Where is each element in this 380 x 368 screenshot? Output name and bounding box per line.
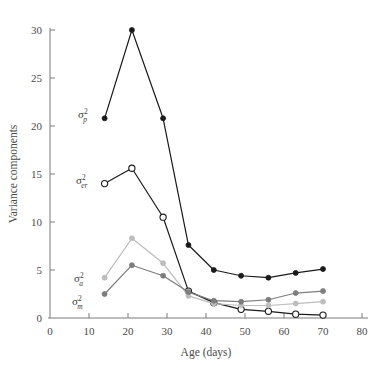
x-tick-label-50: 50 [240,325,252,337]
chart-figure: 05101520253001020304050607080 σ2pσ2erσ2a… [0,0,380,368]
y-axis-title: Variance components [7,124,20,223]
y-tick-label-15: 15 [31,168,43,180]
y-tick-label-30: 30 [31,24,43,36]
point-sigma-squared-m-0 [102,292,107,297]
x-tick-label-60: 60 [279,325,291,337]
line-sigma-squared-p [105,30,323,278]
point-sigma-squared-er-6 [265,308,271,314]
y-tick-label-20: 20 [31,120,43,132]
label-sigma-squared-a: σ2a [74,271,84,288]
point-sigma-squared-er-8 [320,312,326,318]
point-sigma-squared-p-2 [161,116,166,121]
point-sigma-squared-m-8 [321,289,326,294]
point-sigma-squared-a-0 [102,275,107,280]
x-axis-title: Age (days) [181,346,232,359]
series-inline-labels: σ2pσ2erσ2aσ2m [72,107,88,311]
x-tick-label-40: 40 [201,325,213,337]
point-sigma-squared-m-4 [211,298,216,303]
point-sigma-squared-m-7 [293,291,298,296]
label-sigma-squared-m: σ2m [72,294,83,311]
label-subscript: m [77,302,83,311]
point-sigma-squared-er-0 [102,181,108,187]
label-subscript: p [82,115,87,124]
point-sigma-squared-m-5 [239,299,244,304]
point-sigma-squared-m-3 [186,290,191,295]
x-tick-label-80: 80 [357,325,369,337]
y-tick-label-0: 0 [37,312,43,324]
point-sigma-squared-p-4 [211,268,216,273]
label-sigma-squared-er: σ2er [76,173,88,190]
x-tick-label-10: 10 [84,325,96,337]
point-sigma-squared-er-1 [129,165,135,171]
x-tick-label-20: 20 [123,325,135,337]
point-sigma-squared-p-3 [186,243,191,248]
variance-components-line-chart: 05101520253001020304050607080 σ2pσ2erσ2a… [0,0,380,368]
point-sigma-squared-p-6 [266,275,271,280]
point-sigma-squared-a-1 [129,236,134,241]
y-tick-label-10: 10 [31,216,43,228]
x-tick-label-0: 0 [47,325,53,337]
line-sigma-squared-er [105,168,323,315]
x-tick-label-30: 30 [162,325,174,337]
y-tick-label-5: 5 [37,264,43,276]
label-subscript: a [79,279,83,288]
point-sigma-squared-m-6 [266,297,271,302]
point-sigma-squared-er-2 [160,214,166,220]
point-sigma-squared-a-6 [266,303,271,308]
label-subscript: er [81,181,87,190]
point-sigma-squared-p-1 [129,28,134,33]
point-sigma-squared-a-2 [161,261,166,266]
point-sigma-squared-p-8 [321,267,326,272]
label-sigma-squared-p: σ2p [78,107,88,124]
point-sigma-squared-p-7 [293,270,298,275]
point-sigma-squared-m-2 [161,273,166,278]
point-sigma-squared-p-5 [239,273,244,278]
point-sigma-squared-er-7 [293,311,299,317]
point-sigma-squared-m-1 [129,263,134,268]
point-sigma-squared-p-0 [102,116,107,121]
point-sigma-squared-a-7 [293,301,298,306]
x-tick-label-70: 70 [318,325,330,337]
series-group [102,28,327,319]
point-sigma-squared-a-8 [321,299,326,304]
y-tick-label-25: 25 [31,72,43,84]
